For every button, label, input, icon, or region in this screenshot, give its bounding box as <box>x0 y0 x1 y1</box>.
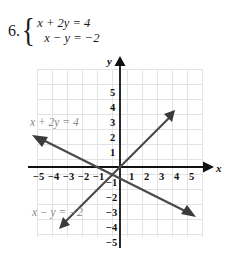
graph-svg: y x x + 2y = 4 x − y = −2 −5 −4 −3 −2 −1… <box>0 52 228 263</box>
x-tick-2: 2 <box>144 171 149 182</box>
line1-arrowhead-right <box>181 205 196 217</box>
x-axis-label: x <box>215 162 222 174</box>
y-tick-2: 2 <box>110 132 115 143</box>
x-axis-arrowhead <box>203 162 214 173</box>
y-axis-label: y <box>105 55 112 67</box>
equation-1: x + 2y = 4 <box>37 16 99 31</box>
line1-arrowhead-left <box>32 135 48 147</box>
x-axis-tick-labels-positive: 1 2 3 4 5 <box>129 171 194 182</box>
x-tick--1: −1 <box>93 171 104 182</box>
y-axis-tick-labels-negative: −1 −2 −3 −4 −5 <box>106 177 118 248</box>
line1-equation-label: x + 2y = 4 <box>29 116 79 129</box>
y-tick--4: −4 <box>106 222 118 233</box>
x-tick-5: 5 <box>189 171 194 182</box>
y-axis-tick-labels-positive: 1 2 3 4 5 <box>110 87 116 158</box>
line2-equation-label: x − y = −2 <box>31 206 83 219</box>
y-tick-4: 4 <box>110 102 116 113</box>
y-tick--5: −5 <box>106 237 117 248</box>
system-of-equations: x + 2y = 4 x − y = −2 <box>37 16 99 46</box>
x-tick--4: −4 <box>48 171 60 182</box>
x-tick-1: 1 <box>129 171 134 182</box>
y-tick-1: 1 <box>110 147 115 158</box>
x-tick--5: −5 <box>33 171 44 182</box>
y-tick-3: 3 <box>110 117 115 128</box>
problem-number: 6. <box>8 22 20 40</box>
equation-2: x − y = −2 <box>37 31 99 46</box>
x-tick--3: −3 <box>63 171 74 182</box>
problem-header: 6. { x + 2y = 4 x − y = −2 <box>8 14 99 47</box>
y-tick-5: 5 <box>110 87 115 98</box>
y-tick--3: −3 <box>106 207 117 218</box>
coordinate-graph: y x x + 2y = 4 x − y = −2 −5 −4 −3 −2 −1… <box>0 52 228 263</box>
x-tick-4: 4 <box>174 171 180 182</box>
y-tick--2: −2 <box>106 192 117 203</box>
x-axis-tick-labels-negative: −5 −4 −3 −2 −1 <box>33 171 104 182</box>
system-brace: { <box>22 13 35 47</box>
x-tick--2: −2 <box>78 171 89 182</box>
x-tick-3: 3 <box>159 171 164 182</box>
y-tick--1: −1 <box>106 177 117 188</box>
y-axis-arrowhead <box>115 56 126 66</box>
